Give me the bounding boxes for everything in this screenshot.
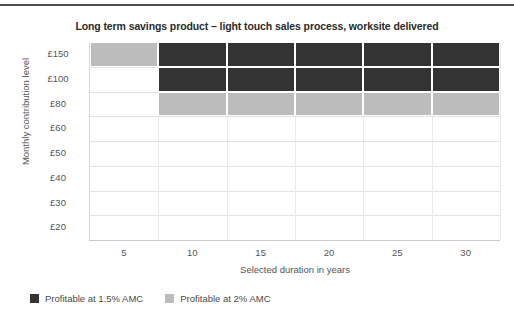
heatmap-cell-r0-c4	[363, 42, 431, 67]
y-tick-2: £80	[30, 92, 86, 117]
x-axis-title: Selected duration in years	[90, 264, 500, 275]
heatmap-plot-area	[90, 42, 500, 240]
y-tick-6: £30	[30, 191, 86, 216]
heatmap-cell-r2-c3	[295, 92, 363, 117]
y-tick-0: £150	[30, 42, 86, 67]
x-tick-5: 30	[432, 247, 500, 258]
heatmap-cell-r2-c2	[227, 92, 295, 117]
heatmap-cell-r0-c5	[432, 42, 500, 67]
header-rule	[0, 4, 514, 6]
heatmap-cell-r0-c3	[295, 42, 363, 67]
legend-label-1: Profitable at 2% AMC	[180, 293, 270, 304]
x-tick-3: 20	[295, 247, 363, 258]
heatmap-cell-r0-c1	[158, 42, 226, 67]
chart-title: Long term savings product – light touch …	[0, 20, 514, 32]
y-tick-4: £50	[30, 141, 86, 166]
legend-item-1: Profitable at 2% AMC	[165, 293, 270, 304]
heatmap-cell-r2-c5	[432, 92, 500, 117]
x-tick-2: 15	[227, 247, 295, 258]
y-axis-title: Monthly contribution level	[20, 32, 31, 192]
legend-item-0: Profitable at 1.5% AMC	[30, 293, 143, 304]
heatmap-cell-r1-c4	[363, 67, 431, 92]
legend-swatch-icon-1	[165, 294, 174, 303]
legend-swatch-icon-0	[30, 294, 39, 303]
y-tick-7: £20	[30, 215, 86, 240]
heatmap-cell-r0-c0	[90, 42, 158, 67]
chart-legend: Profitable at 1.5% AMCProfitable at 2% A…	[30, 293, 271, 304]
x-axis-line	[89, 240, 500, 241]
x-tick-1: 10	[158, 247, 226, 258]
heatmap-cell-r2-c1	[158, 92, 226, 117]
vgridline-6	[500, 42, 501, 240]
y-tick-5: £40	[30, 166, 86, 191]
y-tick-1: £100	[30, 67, 86, 92]
legend-label-0: Profitable at 1.5% AMC	[45, 293, 143, 304]
heatmap-cell-r1-c1	[158, 67, 226, 92]
heatmap-cell-r1-c5	[432, 67, 500, 92]
heatmap-cell-r0-c2	[227, 42, 295, 67]
heatmap-cell-r1-c3	[295, 67, 363, 92]
y-tick-3: £60	[30, 116, 86, 141]
heatmap-cell-r1-c2	[227, 67, 295, 92]
x-tick-0: 5	[90, 247, 158, 258]
x-tick-4: 25	[363, 247, 431, 258]
heatmap-cell-r2-c4	[363, 92, 431, 117]
